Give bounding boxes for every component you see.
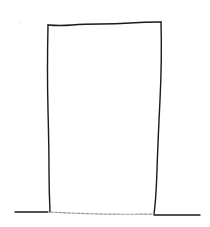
ground-line-middle-segment — [50, 212, 154, 214]
sketch-canvas — [0, 0, 210, 227]
rectangle-top-edge — [48, 22, 161, 26]
ground-line — [15, 212, 200, 215]
rectangle-right-edge — [154, 22, 161, 214]
doorway-rectangle — [48, 22, 162, 214]
rectangle-left-edge — [48, 25, 51, 212]
speck-mark — [20, 22, 21, 23]
